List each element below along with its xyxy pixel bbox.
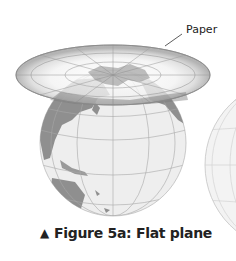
flat-plane-projection-diagram xyxy=(0,0,236,261)
caption-text: Figure 5a: Flat plane xyxy=(54,225,212,241)
paper-label: Paper xyxy=(186,23,217,36)
paper-leader-line xyxy=(165,34,182,46)
flat-plane-paper xyxy=(16,45,210,105)
triangle-marker-icon: ▲ xyxy=(40,226,49,240)
figure-caption: ▲Figure 5a: Flat plane xyxy=(40,225,212,241)
